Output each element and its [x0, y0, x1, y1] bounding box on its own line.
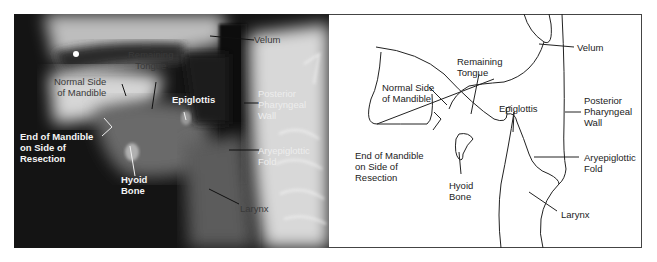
label-larynx: Larynx	[561, 209, 590, 220]
label-velum: Velum	[254, 34, 280, 45]
label-epiglottis: Epiglottis	[172, 94, 215, 105]
tracing-panel: Velum Remaining Tongue Normal Side of Ma…	[329, 14, 642, 248]
label-aryepiglottic-fold: Aryepiglottic Fold	[584, 152, 636, 174]
label-end-of-mandible: End of Mandible on Side of Resection	[20, 131, 93, 164]
label-posterior-pharyngeal-wall: Posterior Pharyngeal Wall	[258, 88, 306, 121]
label-end-of-mandible: End of Mandible on Side of Resection	[355, 150, 424, 183]
label-normal-side-mandible: Normal Side of Mandible	[54, 76, 106, 98]
label-posterior-pharyngeal-wall: Posterior Pharyngeal Wall	[584, 95, 632, 128]
label-hyoid-bone: Hyoid Bone	[449, 180, 473, 202]
label-velum: Velum	[577, 42, 603, 53]
label-aryepiglottic-fold: Aryepiglottic Fold	[258, 145, 310, 167]
label-normal-side-mandible: Normal Side of Mandible	[382, 82, 434, 104]
label-remaining-tongue: Remaining Tongue	[128, 49, 173, 71]
label-remaining-tongue: Remaining Tongue	[457, 56, 502, 78]
label-larynx: Larynx	[240, 203, 269, 214]
label-epiglottis: Epiglottis	[499, 103, 538, 114]
radiograph-panel: Velum Remaining Tongue Normal Side of Ma…	[14, 14, 329, 248]
label-hyoid-bone: Hyoid Bone	[121, 174, 147, 196]
